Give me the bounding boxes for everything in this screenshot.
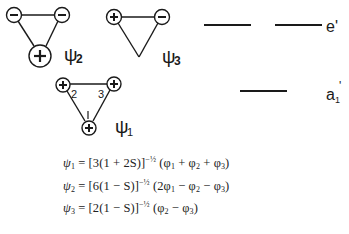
eq-exponent: −½ xyxy=(145,155,156,164)
mo-diagram-figure: ψ 2 ψ 3 ψ 1 2 3 e' a 1 ' xyxy=(0,0,349,234)
psi1-orbital-diagram xyxy=(56,77,121,135)
eq-coefficient: [3(1 + 2S)] xyxy=(89,156,146,170)
node-plus-icon xyxy=(56,78,70,92)
eq-exponent: −½ xyxy=(139,178,150,187)
node-plus-large-icon xyxy=(29,45,51,67)
eq-term: − φ xyxy=(200,179,221,193)
eq-lhs-sub: 3 xyxy=(71,207,75,216)
psi2-subscript: 2 xyxy=(76,52,83,66)
a1-prime-label: a xyxy=(326,86,335,103)
a1-prime-mark: ' xyxy=(339,79,341,93)
eq-lhs-sub: 2 xyxy=(71,185,75,194)
eq-term: ) xyxy=(225,179,229,193)
eq-term: + φ xyxy=(200,156,221,170)
eq-lhs-sub: 1 xyxy=(71,162,75,171)
eq-term: (φ xyxy=(153,201,165,215)
psi1-subscript: 1 xyxy=(127,126,133,138)
node-minus-icon xyxy=(155,10,170,25)
eq-lhs: ψ xyxy=(63,179,71,193)
eq-term: ) xyxy=(194,201,198,215)
energy-level-diagram xyxy=(204,25,322,91)
eq-term: + φ xyxy=(175,156,196,170)
equation-psi3: ψ3 = [2(1 − S)]−½ (φ2 − φ3) xyxy=(63,200,198,216)
node-plus-icon xyxy=(107,77,121,91)
node-minus-icon xyxy=(55,8,70,23)
eq-term: (φ xyxy=(159,156,171,170)
psi2-orbital-diagram xyxy=(7,8,70,68)
eq-coefficient: [6(1 − S)] xyxy=(89,179,139,193)
equation-psi1: ψ1 = [3(1 + 2S)]−½ (φ1 + φ2 + φ3) xyxy=(63,155,229,171)
eq-lhs: ψ xyxy=(63,201,71,215)
eq-lhs: ψ xyxy=(63,156,71,170)
psi3-orbital-diagram xyxy=(107,10,170,58)
eq-term: − φ xyxy=(175,179,196,193)
node-minus-icon xyxy=(7,8,22,23)
a1-prime-subscript: 1 xyxy=(335,95,340,105)
eq-exponent: −½ xyxy=(139,200,150,209)
equation-psi2: ψ2 = [6(1 − S)]−½ (2φ1 − φ2 − φ3) xyxy=(63,178,229,194)
node-plus-icon xyxy=(82,121,96,135)
node-plus-icon xyxy=(107,10,122,25)
psi3-subscript: 3 xyxy=(174,54,181,68)
eq-term: ) xyxy=(225,156,229,170)
eq-term: (2φ xyxy=(153,179,171,193)
node-index-2: 2 xyxy=(71,88,77,100)
node-index-3: 3 xyxy=(98,88,104,100)
eq-term: − φ xyxy=(169,201,190,215)
e-prime-label: e' xyxy=(326,18,338,35)
eq-coefficient: [2(1 − S)] xyxy=(89,201,139,215)
